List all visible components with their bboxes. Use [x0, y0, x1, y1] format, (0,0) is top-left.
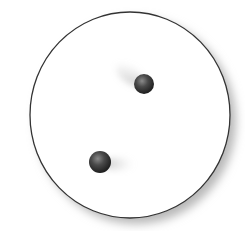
ball-bottom — [89, 151, 111, 173]
ball-top — [134, 74, 154, 94]
diagram-canvas — [0, 0, 245, 231]
container-circle — [30, 12, 230, 218]
